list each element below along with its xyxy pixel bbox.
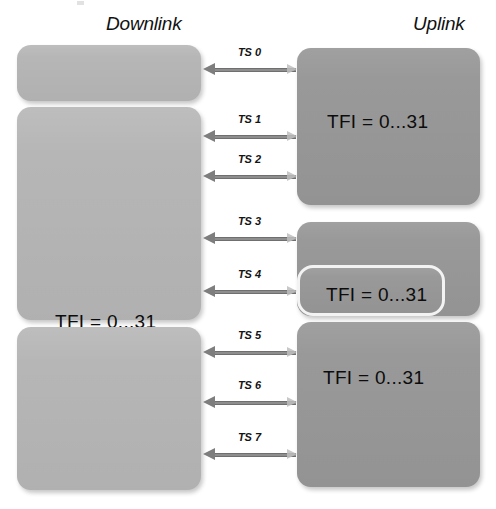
timeslot-label: TS 3	[238, 215, 261, 227]
arrow-head-left-icon	[203, 130, 215, 142]
arrow-head-right-icon	[287, 131, 297, 141]
arrow-line	[213, 135, 296, 139]
arrow-head-right-icon	[287, 286, 297, 296]
arrow-line	[213, 453, 296, 457]
timeslot-label: TS 7	[238, 431, 261, 443]
arrow-head-right-icon	[287, 233, 297, 243]
arrow-head-right-icon	[287, 171, 297, 181]
timeslot-label: TS 5	[238, 329, 261, 341]
arrow-line	[213, 351, 296, 355]
arrow-head-right-icon	[287, 64, 297, 74]
arrow-head-right-icon	[287, 449, 297, 459]
timeslot-label: TS 1	[238, 113, 261, 125]
uplink-tbf-block-3[interactable]: TFI = 0...31	[297, 265, 445, 316]
arrow-line	[213, 175, 296, 179]
arrow-head-left-icon	[203, 448, 215, 460]
timeslot-arrow-ts-1[interactable]: TS 1	[203, 127, 296, 147]
diagram-canvas: Downlink Uplink TFI = 0...31TFI = 0...31…	[0, 0, 496, 509]
downlink-tbf-block-2[interactable]: TFI = 0...31	[17, 107, 201, 320]
timeslot-arrow-ts-3[interactable]: TS 3	[203, 229, 296, 249]
timeslot-arrow-ts-0[interactable]: TS 0	[203, 60, 296, 80]
column-heading-downlink: Downlink	[106, 13, 182, 35]
timeslot-arrow-ts-2[interactable]: TS 2	[203, 167, 296, 187]
uplink-tbf-block-label: TFI = 0...31	[327, 111, 428, 133]
arrow-line	[213, 401, 296, 405]
timeslot-arrow-ts-6[interactable]: TS 6	[203, 393, 296, 413]
timeslot-arrow-ts-5[interactable]: TS 5	[203, 343, 296, 363]
arrow-head-left-icon	[203, 285, 215, 297]
arrow-head-left-icon	[203, 63, 215, 75]
arrow-line	[213, 68, 296, 72]
uplink-tbf-block-label: TFI = 0...31	[323, 367, 424, 389]
arrow-head-left-icon	[203, 346, 215, 358]
arrow-head-right-icon	[287, 397, 297, 407]
timeslot-arrow-ts-7[interactable]: TS 7	[203, 445, 296, 465]
arrow-line	[213, 237, 296, 241]
scan-artifact	[77, 1, 84, 5]
uplink-tbf-block-1[interactable]: TFI = 0...31	[297, 48, 480, 205]
uplink-tbf-block-4[interactable]: TFI = 0...31	[297, 322, 480, 487]
arrow-head-right-icon	[287, 347, 297, 357]
arrow-head-left-icon	[203, 170, 215, 182]
column-heading-uplink: Uplink	[413, 13, 465, 35]
timeslot-label: TS 6	[238, 379, 261, 391]
downlink-tbf-block-3[interactable]: TFI = 0...31	[17, 327, 201, 490]
arrow-line	[213, 290, 296, 294]
timeslot-label: TS 4	[238, 268, 261, 280]
timeslot-label: TS 0	[238, 46, 261, 58]
downlink-tbf-block-1[interactable]: TFI = 0...31	[17, 45, 201, 101]
arrow-head-left-icon	[203, 232, 215, 244]
timeslot-arrow-ts-4[interactable]: TS 4	[203, 282, 296, 302]
timeslot-label: TS 2	[238, 153, 261, 165]
uplink-tbf-block-label: TFI = 0...31	[326, 284, 427, 306]
arrow-head-left-icon	[203, 396, 215, 408]
